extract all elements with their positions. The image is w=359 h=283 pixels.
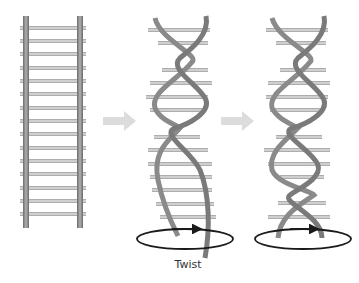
right-arrow-icon — [103, 111, 136, 131]
fully-twisted-helix — [255, 16, 351, 249]
rotation-ellipse-icon — [137, 229, 233, 249]
rotation-ellipse-icon — [255, 229, 351, 249]
straight-ladder — [20, 16, 86, 228]
right-arrow-icon — [221, 111, 254, 131]
partially-twisted-helix — [137, 16, 233, 258]
ladder-rail-left — [23, 16, 29, 228]
ladder-rail-right — [77, 16, 83, 228]
twist-caption: Twist — [168, 258, 208, 271]
dna-twist-diagram — [0, 0, 359, 283]
ladder-rungs — [20, 26, 86, 216]
